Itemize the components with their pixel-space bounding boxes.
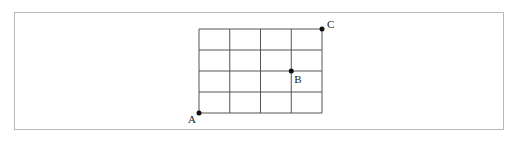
point-c-dot — [320, 27, 325, 32]
grid-lines — [199, 29, 322, 113]
point-a-dot — [197, 111, 202, 116]
point-a-label: A — [188, 113, 196, 125]
point-b-dot — [289, 69, 294, 74]
point-b-label: B — [294, 73, 301, 85]
point-c-label: C — [327, 18, 334, 30]
grid-diagram: ABC — [0, 0, 511, 141]
